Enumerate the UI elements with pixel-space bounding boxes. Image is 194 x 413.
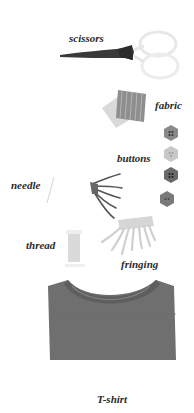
fabric-label: fabric — [155, 100, 182, 111]
scissors-image — [58, 30, 188, 82]
tshirt-label: T-shirt — [97, 394, 127, 405]
needle-image — [44, 175, 56, 205]
fringing-label: fringing — [121, 259, 158, 270]
fringing-image — [98, 216, 156, 256]
thread-label: thread — [26, 240, 55, 251]
thread-spool-image — [64, 228, 86, 270]
tshirt-image — [44, 278, 178, 362]
button-3 — [162, 166, 180, 184]
fabric-image — [100, 86, 150, 128]
button-2 — [162, 145, 180, 163]
button-1 — [162, 124, 180, 142]
buttons-label: buttons — [117, 153, 151, 164]
needle-label: needle — [11, 180, 40, 191]
floss-image — [88, 172, 128, 222]
button-4 — [158, 190, 176, 208]
